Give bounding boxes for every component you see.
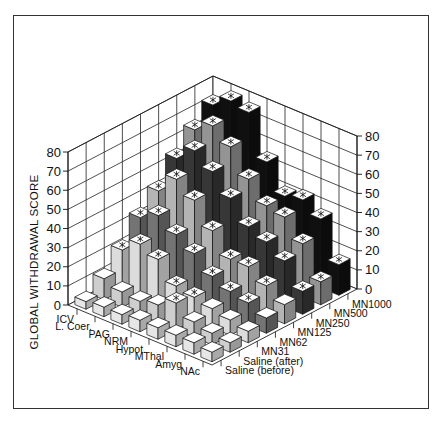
site-label: L. Coer.: [55, 320, 92, 332]
treatment-label: MN1000: [352, 298, 392, 310]
y-tick-right: 60: [365, 167, 379, 182]
site-label: Amyg: [155, 358, 182, 370]
y-tick-right: 10: [365, 262, 379, 277]
y-axis-label: GLOBAL WITHDRAWAL SCORE: [28, 174, 40, 349]
y-tick-left: 70: [47, 164, 61, 179]
y-tick-left: 40: [47, 221, 61, 236]
y-tick-left: 30: [47, 240, 61, 255]
3d-bar-chart: 0010102020303040405050606070708080ICVL. …: [0, 0, 442, 434]
site-label: NAc: [180, 365, 200, 377]
y-tick-right: 40: [365, 205, 379, 220]
y-tick-left: 10: [47, 278, 61, 293]
y-tick-left: 0: [54, 298, 61, 313]
y-tick-right: 70: [365, 148, 379, 163]
y-tick-left: 20: [47, 259, 61, 274]
y-tick-right: 20: [365, 243, 379, 258]
y-tick-right: 0: [365, 282, 372, 297]
y-tick-left: 60: [47, 183, 61, 198]
y-tick-right: 80: [365, 129, 379, 144]
y-tick-left: 50: [47, 202, 61, 217]
y-tick-left: 80: [47, 145, 61, 160]
y-tick-right: 50: [365, 186, 379, 201]
y-tick-right: 30: [365, 224, 379, 239]
